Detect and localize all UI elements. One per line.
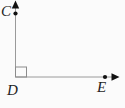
right-angle-marker [16,67,27,77]
ray-de-arrowhead-icon [112,73,120,80]
point-c-dot [13,11,17,15]
point-c-label: C [1,4,11,19]
figure-canvas [0,0,125,108]
right-angle-figure: C D E [0,0,125,108]
point-e-label: E [97,80,106,95]
point-d-label: D [7,83,18,98]
ray-dc-arrowhead-icon [12,1,19,9]
